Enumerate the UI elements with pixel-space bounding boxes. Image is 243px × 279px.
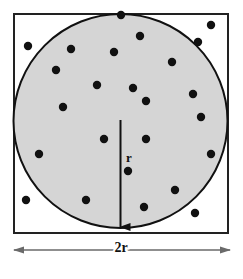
scatter-point — [129, 84, 137, 92]
side-dimension-label: 2r — [114, 240, 127, 255]
scatter-point — [142, 97, 150, 105]
scatter-point — [142, 135, 150, 143]
scatter-point — [191, 209, 199, 217]
scatter-point — [189, 90, 197, 98]
scatter-point — [110, 48, 118, 56]
scatter-point — [168, 58, 176, 66]
scatter-point — [124, 167, 132, 175]
scatter-point — [67, 45, 75, 53]
scatter-point — [59, 103, 67, 111]
scatter-point — [207, 150, 215, 158]
scatter-point — [93, 81, 101, 89]
scatter-point — [82, 196, 90, 204]
scatter-point — [171, 186, 179, 194]
radius-label: r — [126, 150, 132, 165]
scatter-point — [22, 196, 30, 204]
figure-container: r 2r — [0, 0, 243, 279]
scatter-point — [194, 38, 202, 46]
scatter-point — [140, 203, 148, 211]
scatter-point — [117, 11, 125, 19]
scatter-point — [52, 66, 60, 74]
scatter-point — [136, 32, 144, 40]
scatter-point — [207, 21, 215, 29]
scatter-point — [197, 113, 205, 121]
circle-in-square-diagram: r 2r — [0, 0, 243, 279]
scatter-point — [35, 150, 43, 158]
scatter-point — [24, 42, 32, 50]
scatter-point — [100, 135, 108, 143]
